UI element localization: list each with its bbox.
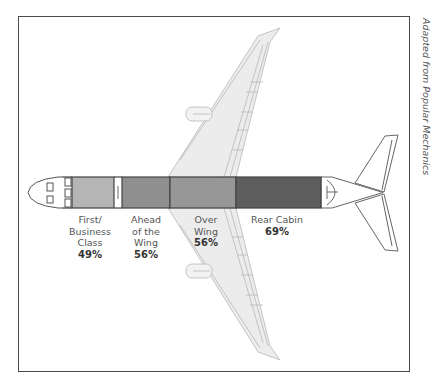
nose [28,177,71,208]
label-line: Wing [171,226,241,238]
airplane-diagram [0,0,438,389]
label-line: Rear Cabin [242,214,312,226]
survival-percent: 56% [171,237,241,249]
survival-percent: 69% [242,226,312,238]
tail-stabilizer [321,135,398,251]
section-rear-cabin [236,177,321,208]
fuselage [62,177,321,208]
upper-wing [168,28,280,177]
label-rear-cabin: Rear Cabin 69% [242,214,312,237]
section-ahead-of-wing [122,177,170,208]
survival-percent: 56% [111,249,181,261]
source-credit: Adapted from Popular Mechanics [421,18,432,175]
label-line: Over [171,214,241,226]
label-over-wing: Over Wing 56% [171,214,241,249]
section-over-wing [170,177,236,208]
section-first-business [72,177,114,208]
